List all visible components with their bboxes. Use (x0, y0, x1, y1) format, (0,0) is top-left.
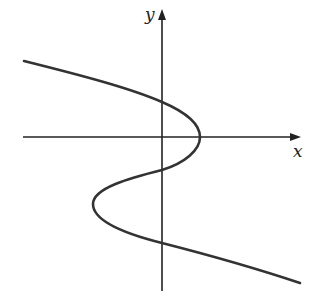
x-axis: x (23, 133, 303, 161)
x-axis-arrow-icon (290, 133, 301, 141)
y-axis-label: y (144, 4, 155, 24)
y-axis-arrow-icon (158, 9, 166, 20)
x-axis-label: x (293, 141, 303, 161)
function-graph: x y (0, 0, 320, 307)
y-axis: y (144, 4, 166, 291)
